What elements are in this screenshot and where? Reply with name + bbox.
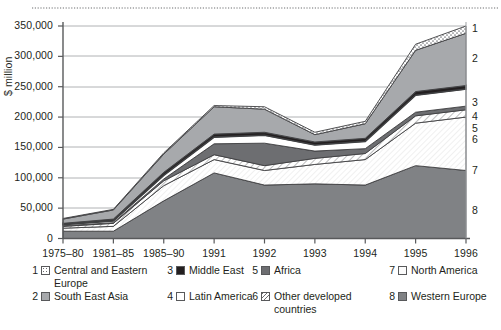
y-tick-label: 150,000 [0, 140, 53, 152]
legend-number: 5 [248, 264, 258, 277]
legend-number: 8 [385, 290, 395, 303]
legend-number: 7 [385, 264, 395, 277]
legend-item-4[interactable]: 4Latin America [163, 290, 253, 303]
legend-swatch-icon [398, 292, 407, 301]
legend-item-1[interactable]: 1Central and Eastern Europe [28, 264, 172, 290]
y-tick-label: 0 [0, 232, 53, 244]
legend-swatch-icon [176, 266, 185, 275]
legend-label: South East Asia [54, 290, 128, 303]
y-tick-label: 200,000 [0, 110, 53, 122]
stacked-area-series-group [63, 26, 466, 239]
legend-swatch-icon [176, 292, 185, 301]
y-tick-label: 50,000 [0, 201, 53, 213]
legend-item-5[interactable]: 5Africa [248, 264, 301, 277]
series-number-label-6: 6 [472, 133, 478, 145]
series-number-label-3: 3 [472, 96, 478, 108]
legend-number: 6 [248, 290, 258, 303]
legend-swatch-icon [398, 266, 407, 275]
legend-swatch-icon [261, 266, 270, 275]
legend-label: Western Europe [411, 290, 487, 303]
legend-item-3[interactable]: 3Middle East [163, 264, 244, 277]
legend-label: Africa [274, 264, 301, 277]
y-tick-label: 300,000 [0, 49, 53, 61]
legend-item-8[interactable]: 8Western Europe [385, 290, 487, 303]
series-number-label-7: 7 [472, 164, 478, 176]
series-number-label-1: 1 [472, 22, 478, 34]
legend-swatch-icon [261, 292, 270, 301]
legend-label: North America [411, 264, 478, 277]
y-tick-label: 250,000 [0, 80, 53, 92]
legend-number: 1 [28, 264, 38, 277]
legend-number: 4 [163, 290, 173, 303]
legend-item-2[interactable]: 2South East Asia [28, 290, 128, 303]
legend-number: 2 [28, 290, 38, 303]
legend-item-6[interactable]: 6Other developed countries [248, 290, 392, 316]
legend-label: Other developed countries [274, 290, 392, 316]
legend-number: 3 [163, 264, 173, 277]
series-number-label-8: 8 [472, 204, 478, 216]
x-axis-ticks [63, 239, 466, 244]
legend-swatch-icon [41, 292, 50, 301]
series-number-label-4: 4 [472, 110, 478, 122]
y-tick-label: 350,000 [0, 19, 53, 31]
chart-legend: 1Central and Eastern Europe2South East A… [0, 262, 501, 330]
series-number-label-2: 2 [472, 52, 478, 64]
stacked-area-chart: $ million 050,000100,000150,000200,00025… [0, 0, 501, 330]
legend-swatch-icon [41, 266, 50, 275]
y-tick-label: 100,000 [0, 171, 53, 183]
legend-label: Latin America [189, 290, 253, 303]
legend-item-7[interactable]: 7North America [385, 264, 478, 277]
y-axis-ticks [58, 26, 63, 239]
x-tick-label: 1996 [436, 247, 496, 259]
legend-label: Central and Eastern Europe [54, 264, 172, 290]
legend-label: Middle East [189, 264, 244, 277]
